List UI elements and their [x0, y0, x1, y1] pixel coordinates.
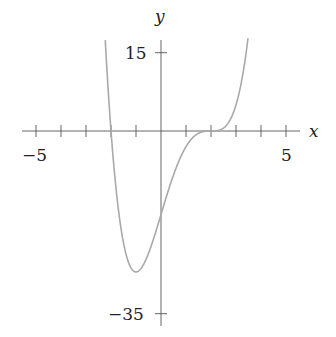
function-plot: x y −5 5 15 −35	[0, 0, 336, 337]
y-tick-label-bottom: −35	[108, 304, 144, 324]
axes	[22, 40, 300, 326]
y-axis-label: y	[154, 6, 165, 26]
x-axis-label: x	[309, 121, 319, 141]
y-tick-label-top: 15	[125, 43, 147, 63]
plot-container: x y −5 5 15 −35	[0, 0, 336, 337]
function-curve	[105, 38, 248, 272]
x-tick-label-max: 5	[281, 145, 292, 165]
x-tick-label-min: −5	[22, 145, 47, 165]
